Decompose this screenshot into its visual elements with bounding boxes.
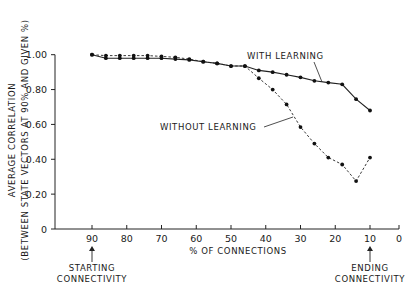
- data-point: [299, 75, 303, 79]
- x-tick-label: 70: [155, 233, 167, 244]
- data-point: [257, 76, 261, 80]
- data-point: [340, 82, 344, 86]
- data-point: [132, 54, 136, 58]
- data-point: [313, 79, 317, 83]
- data-point: [257, 68, 261, 72]
- data-point: [104, 54, 108, 58]
- data-point: [174, 55, 178, 59]
- without-learning-line: [92, 55, 370, 181]
- data-point: [326, 156, 330, 160]
- data-point: [326, 81, 330, 85]
- data-point: [354, 179, 358, 183]
- x-tick-label: 0: [396, 233, 402, 244]
- x-tick-label: 20: [329, 233, 341, 244]
- y-tick-label: 0: [41, 224, 47, 235]
- starting-label-line1: STARTING: [69, 263, 115, 273]
- data-point: [146, 54, 150, 58]
- data-point: [285, 73, 289, 77]
- data-point: [340, 163, 344, 167]
- x-tick-label: 30: [294, 233, 306, 244]
- with-learning-label: WITH LEARNING: [247, 51, 324, 61]
- data-point: [313, 142, 317, 146]
- x-tick-label: 10: [364, 233, 376, 244]
- axes: 00.200.400.600.801.009080706050403020100: [26, 49, 402, 244]
- y-axis-label-line1: AVERAGE CORRELATION: [7, 83, 17, 197]
- starting-label-line2: CONNECTIVITY: [57, 274, 127, 284]
- y-axis-label-line2: (BETWEEN STATE VECTORS AT 90% AND GIVEN …: [20, 19, 30, 260]
- data-point: [299, 125, 303, 129]
- data-point: [271, 88, 275, 92]
- data-point: [368, 156, 372, 160]
- x-tick-label: 40: [260, 233, 272, 244]
- data-point: [243, 64, 247, 68]
- data-point: [201, 60, 205, 64]
- data-point: [160, 55, 164, 59]
- without-learning-label: WITHOUT LEARNING: [160, 122, 257, 132]
- ending-label-line2: CONNECTIVITY: [335, 274, 405, 284]
- data-point: [368, 109, 372, 113]
- data-point: [354, 97, 358, 101]
- x-tick-label: 90: [86, 233, 98, 244]
- labels-layer: WITH LEARNING WITHOUT LEARNING % OF CONN…: [7, 19, 405, 284]
- arrow-up-icon: [89, 246, 95, 251]
- data-point: [285, 102, 289, 106]
- data-point: [215, 62, 219, 66]
- x-tick-label: 60: [190, 233, 202, 244]
- ending-label-line1: ENDING: [351, 263, 388, 273]
- x-axis-label: % OF CONNECTIONS: [189, 246, 286, 256]
- x-tick-label: 50: [225, 233, 237, 244]
- arrow-up-icon: [367, 246, 373, 251]
- data-point: [118, 54, 122, 58]
- data-point: [229, 64, 233, 68]
- with-learning-leader: [314, 62, 322, 82]
- x-tick-label: 80: [121, 233, 133, 244]
- series-layer: [90, 53, 372, 183]
- data-point: [271, 70, 275, 74]
- line-chart: 00.200.400.600.801.009080706050403020100…: [0, 0, 409, 286]
- data-point: [90, 53, 94, 57]
- without-learning-leader: [264, 117, 293, 127]
- data-point: [187, 57, 191, 61]
